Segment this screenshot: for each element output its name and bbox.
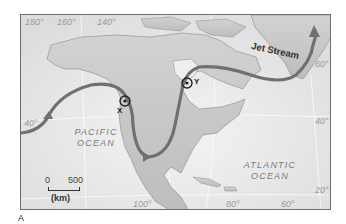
scale-unit: (km) [51, 193, 70, 203]
longitude-label-160: 160° [57, 17, 76, 27]
longitude-label-60: 60° [281, 199, 295, 209]
marker-y-label: Y [194, 77, 199, 86]
map-frame: 180° 160° 140° 100° 80° 60° 40° 60° 40° … [20, 14, 331, 210]
marker-x-label: X [117, 106, 122, 115]
longitude-label-100: 100° [133, 199, 152, 209]
pacific-ocean-label: PACIFIC OCEAN [61, 127, 131, 149]
scale-bar: 0 500 (km) [43, 175, 83, 209]
scale-bar-line [48, 187, 80, 191]
latitude-label-right-40: 40° [315, 116, 329, 126]
longitude-label-180: 180° [25, 17, 44, 27]
latitude-label-right-20: 20° [315, 185, 329, 195]
atlantic-ocean-label: ATLANTIC OCEAN [235, 160, 305, 182]
latitude-label-left-40: 40° [24, 118, 38, 128]
longitude-label-140: 140° [97, 17, 116, 27]
latitude-label-right-60: 60° [315, 59, 329, 69]
longitude-label-80: 80° [226, 199, 240, 209]
scale-start: 0 [45, 175, 50, 185]
scale-end: 500 [68, 175, 83, 185]
figure-label: A [18, 213, 24, 223]
